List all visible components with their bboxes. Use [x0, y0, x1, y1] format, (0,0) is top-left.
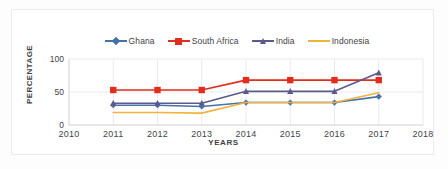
x-tick-label: 2011: [93, 129, 133, 139]
chart-figure: GhanaSouth AfricaIndiaIndonesia PERCENTA…: [0, 0, 448, 169]
data-point-south-africa-2013: [199, 87, 205, 93]
data-point-south-africa-2012: [154, 87, 160, 93]
data-point-south-africa-2011: [110, 87, 116, 93]
x-tick-label: 2010: [49, 129, 89, 139]
x-tick-label: 2014: [226, 129, 266, 139]
x-tick-label: 2012: [138, 129, 178, 139]
data-point-south-africa-2015: [287, 77, 293, 83]
chart-plot-area: GhanaSouth AfricaIndiaIndonesia PERCENTA…: [12, 10, 433, 154]
y-tick-label: 50: [38, 87, 64, 97]
data-point-south-africa-2016: [331, 77, 337, 83]
plot-wrapper: PERCENTAGE YEARS 10050020102011201220132…: [12, 10, 435, 156]
x-tick-label: 2016: [315, 129, 355, 139]
y-tick-label: 100: [38, 54, 64, 64]
y-tick-label: 0: [38, 120, 64, 130]
chart-frame: GhanaSouth AfricaIndiaIndonesia PERCENTA…: [11, 9, 434, 155]
x-tick-label: 2013: [182, 129, 222, 139]
x-tick-label: 2015: [270, 129, 310, 139]
data-point-south-africa-2017: [376, 77, 382, 83]
data-point-south-africa-2014: [243, 77, 249, 83]
x-tick-label: 2017: [359, 129, 399, 139]
x-tick-label: 2018: [403, 129, 443, 139]
